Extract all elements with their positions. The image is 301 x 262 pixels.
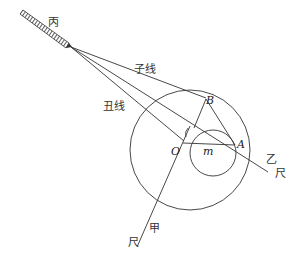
label-ruler-yi-char: 尺 [275,167,286,180]
label-point-B: B [205,94,214,107]
segment-B-left [194,99,206,128]
ruler-jia-line [137,126,190,247]
telescope-tube [20,10,72,48]
label-ruler-yi-name: 乙 [266,153,277,166]
line-to-A [71,47,268,172]
label-point-O: O [171,145,180,158]
label-line-chou: 丑线 [103,99,125,113]
label-point-A: A [236,138,245,151]
label-segment-m: m [203,145,213,158]
label-ruler-jia-name: 甲 [149,222,160,235]
geometry-diagram: 丙 子线 丑线 B O A m 乙 尺 甲 尺 [0,0,301,262]
line-chou [71,47,184,141]
label-line-zi: 子线 [134,62,156,76]
label-telescope: 丙 [48,16,59,29]
label-ruler-jia-char: 尺 [128,236,139,249]
